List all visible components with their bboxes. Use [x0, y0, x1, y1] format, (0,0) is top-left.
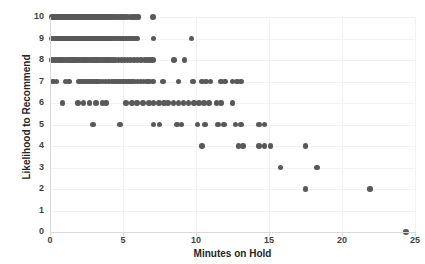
- x-axis-line: [50, 232, 415, 233]
- gridline-horizontal: [50, 189, 415, 190]
- data-point: [268, 143, 274, 149]
- data-point: [140, 100, 146, 106]
- data-point: [215, 122, 221, 128]
- data-point: [151, 122, 157, 128]
- data-point: [303, 186, 309, 192]
- gridline-vertical: [269, 17, 270, 232]
- x-axis-tick: [50, 232, 51, 236]
- data-point: [150, 14, 156, 20]
- data-point: [218, 100, 224, 106]
- data-point: [176, 79, 182, 85]
- data-point: [195, 122, 201, 128]
- data-point: [66, 79, 72, 85]
- y-axis-line: [50, 17, 51, 233]
- data-point: [240, 143, 246, 149]
- data-point: [75, 100, 81, 106]
- data-point: [189, 36, 195, 42]
- x-tick-label: 15: [254, 236, 284, 245]
- data-point: [202, 122, 208, 128]
- x-tick-label: 20: [327, 236, 357, 245]
- x-tick-label: 10: [181, 236, 211, 245]
- gridline-vertical: [342, 17, 343, 232]
- data-point: [81, 100, 87, 106]
- data-point: [60, 100, 66, 106]
- data-point: [134, 100, 140, 106]
- x-axis-tick: [269, 232, 270, 236]
- data-point: [123, 100, 129, 106]
- gridline-vertical: [415, 17, 416, 232]
- x-axis-title: Minutes on Hold: [50, 249, 415, 259]
- data-point: [238, 79, 244, 85]
- data-point: [134, 36, 140, 42]
- y-tick-label: 1: [26, 206, 44, 215]
- data-point: [262, 122, 268, 128]
- y-tick-label: 0: [26, 227, 44, 236]
- data-point: [222, 79, 228, 85]
- x-tick-label: 25: [400, 236, 425, 245]
- data-point: [103, 100, 109, 106]
- gridline-vertical: [123, 17, 124, 232]
- data-point: [238, 122, 244, 128]
- data-point: [182, 57, 188, 63]
- y-tick-label: 10: [26, 12, 44, 21]
- data-point: [199, 143, 205, 149]
- data-point: [54, 79, 60, 85]
- data-point: [233, 122, 239, 128]
- data-point: [150, 79, 156, 85]
- data-point: [208, 79, 214, 85]
- data-point: [262, 143, 268, 149]
- x-axis-tick: [342, 232, 343, 236]
- data-point: [136, 14, 142, 20]
- data-point: [171, 57, 177, 63]
- data-point: [87, 100, 93, 106]
- gridline-horizontal: [50, 168, 415, 169]
- data-point: [93, 100, 99, 106]
- x-axis-tick: [415, 232, 416, 236]
- scatter-chart: 012345678910 0510152025 Minutes on Hold …: [0, 0, 425, 264]
- data-point: [278, 165, 284, 171]
- data-point: [117, 122, 123, 128]
- plot-area: [50, 17, 415, 232]
- data-point: [179, 122, 185, 128]
- data-point: [90, 122, 96, 128]
- gridline-horizontal: [50, 211, 415, 212]
- data-point: [151, 36, 157, 42]
- x-axis-tick: [196, 232, 197, 236]
- data-point: [367, 186, 373, 192]
- gridline-horizontal: [50, 146, 415, 147]
- data-point: [230, 100, 236, 106]
- x-tick-label: 5: [108, 236, 138, 245]
- data-point: [157, 122, 163, 128]
- x-axis-tick: [123, 232, 124, 236]
- x-tick-label: 0: [35, 236, 65, 245]
- data-point: [206, 100, 212, 106]
- data-point: [190, 79, 196, 85]
- y-axis-title: Likelihood to Recommend: [22, 32, 32, 202]
- data-point: [256, 143, 262, 149]
- data-point: [150, 57, 156, 63]
- data-point: [314, 165, 320, 171]
- data-point: [303, 143, 309, 149]
- data-point: [160, 79, 166, 85]
- data-point: [221, 122, 227, 128]
- data-point: [256, 122, 262, 128]
